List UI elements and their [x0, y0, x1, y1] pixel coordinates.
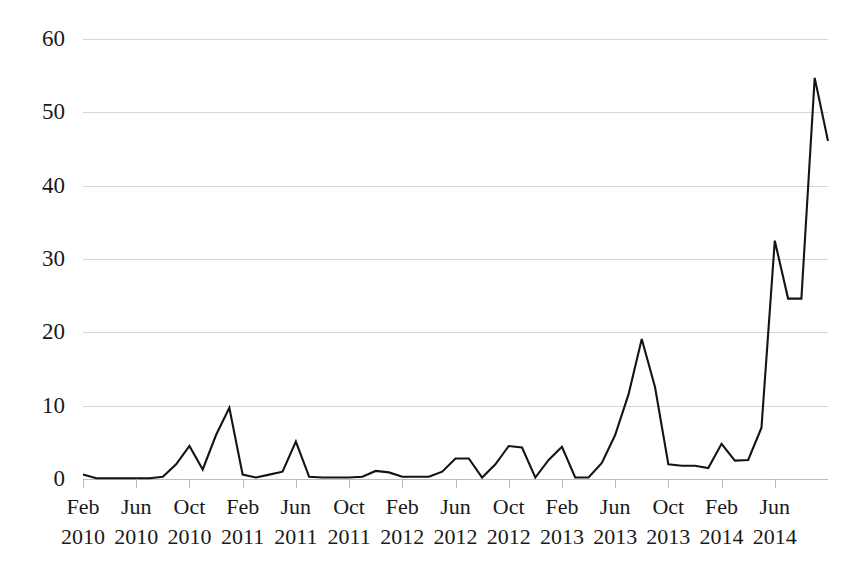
x-axis-tick-year: 2012 [487, 522, 531, 552]
x-axis-tick-label: Feb2010 [61, 492, 105, 552]
y-axis-tick-label: 60 [42, 27, 65, 50]
x-axis-tick-mark [722, 479, 723, 488]
line-chart: 6050403020100 Feb2010Jun2010Oct2010Feb20… [0, 0, 842, 562]
x-axis-tick-year: 2013 [540, 522, 584, 552]
x-axis-tick-mark [668, 479, 669, 488]
x-axis-tick-label: Jun2013 [593, 492, 637, 552]
x-axis-tick-mark [83, 479, 84, 488]
x-axis-tick-year: 2014 [753, 522, 797, 552]
x-axis-tick-mark [243, 479, 244, 488]
x-axis-tick-label: Oct2013 [646, 492, 690, 552]
x-axis-tick-mark [615, 479, 616, 488]
x-axis-tick-year: 2013 [593, 522, 637, 552]
x-axis-tick-label: Feb2012 [380, 492, 424, 552]
x-axis-tick-year: 2010 [114, 522, 158, 552]
y-axis-tick-labels: 6050403020100 [0, 0, 83, 562]
x-axis-tick-month: Jun [274, 492, 317, 522]
x-axis-tick-month: Oct [167, 492, 211, 522]
x-axis-tick-label: Feb2011 [221, 492, 264, 552]
x-axis-tick-year: 2010 [61, 522, 105, 552]
x-axis-tick-mark [509, 479, 510, 488]
x-axis-tick-year: 2011 [274, 522, 317, 552]
x-axis-tick-label: Jun2011 [274, 492, 317, 552]
x-axis-tick-label: Oct2012 [487, 492, 531, 552]
x-axis-tick-month: Oct [487, 492, 531, 522]
x-axis-tick-label: Jun2014 [753, 492, 797, 552]
x-axis-tick-month: Feb [700, 492, 744, 522]
x-axis-tick-mark [349, 479, 350, 488]
x-axis-tick-month: Jun [593, 492, 637, 522]
x-axis-tick-month: Jun [434, 492, 478, 522]
x-axis-tick-month: Jun [114, 492, 158, 522]
x-axis-tick-label: Jun2012 [434, 492, 478, 552]
x-axis-tick-year: 2011 [221, 522, 264, 552]
series-svg [83, 39, 828, 479]
x-axis-tick-mark [189, 479, 190, 488]
x-axis-tick-month: Feb [380, 492, 424, 522]
x-axis-tick-month: Feb [221, 492, 264, 522]
x-axis-tick-month: Jun [753, 492, 797, 522]
y-axis-tick-label: 50 [42, 100, 65, 123]
x-axis-tick-label: Jun2010 [114, 492, 158, 552]
y-axis-tick-label: 40 [42, 174, 65, 197]
x-axis-tick-label: Feb2013 [540, 492, 584, 552]
y-axis-tick-label: 0 [54, 467, 66, 490]
x-axis-tick-label: Oct2010 [167, 492, 211, 552]
y-axis-tick-label: 20 [42, 320, 65, 343]
series-line [83, 78, 828, 478]
x-axis-tick-month: Feb [540, 492, 584, 522]
x-axis-tick-year: 2012 [380, 522, 424, 552]
x-axis-tick-year: 2011 [327, 522, 370, 552]
x-axis-tick-labels: Feb2010Jun2010Oct2010Feb2011Jun2011Oct20… [0, 492, 842, 562]
x-axis-tick-month: Oct [646, 492, 690, 522]
x-axis-tick-label: Feb2014 [700, 492, 744, 552]
x-axis-tick-month: Oct [327, 492, 370, 522]
y-axis-tick-label: 10 [42, 394, 65, 417]
x-axis-tick-label: Oct2011 [327, 492, 370, 552]
x-axis-tick-year: 2012 [434, 522, 478, 552]
x-axis-tick-year: 2013 [646, 522, 690, 552]
y-axis-tick-label: 30 [42, 247, 65, 270]
x-axis-tick-mark [562, 479, 563, 488]
plot-area [83, 39, 828, 479]
x-axis-tick-mark [402, 479, 403, 488]
x-axis-tick-marks [83, 479, 828, 488]
x-axis-tick-mark [775, 479, 776, 488]
x-axis-tick-mark [456, 479, 457, 488]
x-axis-tick-year: 2014 [700, 522, 744, 552]
x-axis-tick-month: Feb [61, 492, 105, 522]
x-axis-tick-mark [296, 479, 297, 488]
x-axis-tick-year: 2010 [167, 522, 211, 552]
x-axis-tick-mark [136, 479, 137, 488]
